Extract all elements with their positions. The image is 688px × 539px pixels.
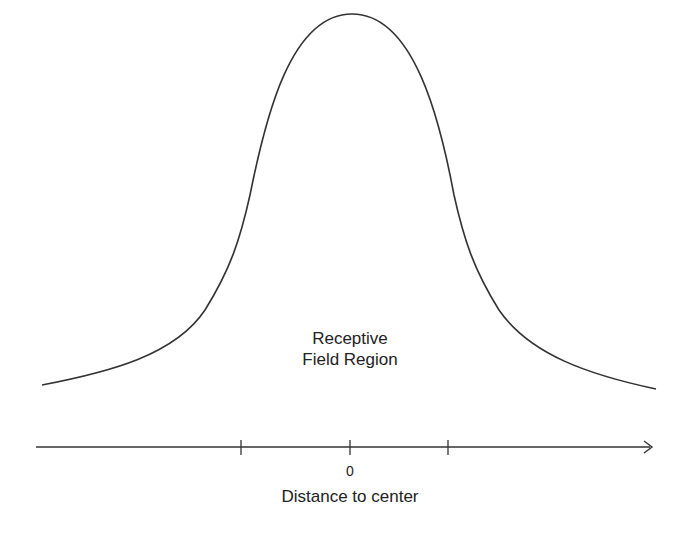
x-axis-label: Distance to center [200, 486, 500, 507]
center-tick-label: 0 [330, 463, 370, 479]
region-label-line2: Field Region [250, 349, 450, 370]
diagram-canvas: Receptive Field Region 0 Distance to cen… [0, 0, 688, 539]
bell-curve-plot [0, 0, 688, 539]
region-label-line1: Receptive [250, 328, 450, 349]
region-label: Receptive Field Region [250, 328, 450, 370]
